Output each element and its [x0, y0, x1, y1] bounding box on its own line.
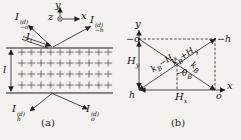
- dimension-arrows-b: [139, 42, 145, 91]
- transmitted-h-arrow: [30, 94, 52, 112]
- panel-b: y x −o −h h o Hy Hx θB kB kB−Hx kB+Hy (b…: [122, 0, 241, 140]
- corner-label-minus-o: −o: [126, 34, 140, 44]
- scanned-figure: y x z I(d)−o I(d)−h Ii I(d)h I(d)o l (a): [0, 0, 241, 140]
- z-axis-label-a: z: [48, 12, 53, 22]
- label-transmitted-o: I(d)o: [86, 104, 99, 121]
- caption-b: (b): [166, 117, 190, 128]
- x-axis-label-a: x: [81, 11, 87, 21]
- panel-a: y x z I(d)−o I(d)−h Ii I(d)h I(d)o l (a): [0, 0, 122, 140]
- corner-label-minus-h: −h: [217, 34, 231, 44]
- caption-a: (a): [36, 117, 60, 128]
- reflected-minus-h-arrow: [53, 27, 91, 48]
- corner-label-o: o: [216, 91, 222, 101]
- x-axis-label-b: x: [227, 81, 233, 91]
- y-axis-label-a: y: [55, 0, 61, 10]
- label-incident-beam: Ii: [26, 32, 32, 44]
- label-Hx: Hx: [175, 92, 187, 104]
- transmitted-o-arrow: [53, 94, 88, 110]
- label-Hy: Hy: [127, 56, 139, 68]
- y-axis-label-b: y: [135, 19, 141, 29]
- thickness-label: l: [3, 65, 6, 75]
- grating-slab: [6, 48, 113, 93]
- corner-label-h: h: [129, 90, 135, 100]
- label-reflected-minus-h: I(d)−h: [90, 15, 103, 32]
- coordinate-axes-a: [58, 8, 80, 22]
- label-reflected-minus-o: I(d)−o: [15, 12, 28, 29]
- label-transmitted-h: I(d)h: [12, 104, 25, 121]
